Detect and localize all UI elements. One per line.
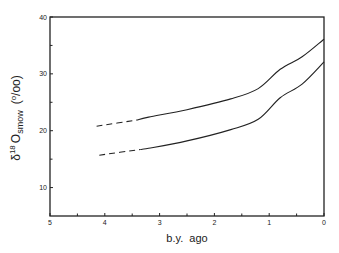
chart: 543210 10203040 b.y. ago δ18Osmow(o/oo) bbox=[0, 0, 339, 253]
y-tick-label: 30 bbox=[39, 70, 47, 77]
data-curves bbox=[97, 39, 324, 155]
y-label-sup: 18 bbox=[8, 145, 17, 154]
svg-text:δ18Osmow(o/oo): δ18Osmow(o/oo) bbox=[8, 75, 25, 161]
x-axis-label: b.y. ago bbox=[166, 232, 207, 244]
curve-solid bbox=[140, 62, 324, 150]
y-label-sub: smow bbox=[15, 110, 25, 134]
y-label-unit-rest: /oo bbox=[9, 79, 23, 96]
x-tick-label: 0 bbox=[322, 219, 326, 226]
curve-dashed bbox=[97, 120, 138, 126]
x-tick-label: 1 bbox=[267, 219, 271, 226]
x-tick-label: 4 bbox=[103, 219, 107, 226]
curve-dashed bbox=[99, 150, 140, 156]
curve-solid bbox=[138, 39, 324, 120]
x-tick-label: 3 bbox=[158, 219, 162, 226]
y-axis-label: δ18Osmow(o/oo) bbox=[8, 75, 25, 161]
x-tick-label: 2 bbox=[212, 219, 216, 226]
y-tick-label: 10 bbox=[39, 184, 47, 191]
y-axis-ticks: 10203040 bbox=[39, 14, 53, 192]
x-axis-ticks: 543210 bbox=[48, 213, 326, 226]
y-label-o: O bbox=[9, 134, 23, 143]
y-tick-label: 20 bbox=[39, 127, 47, 134]
plot-frame bbox=[50, 17, 324, 216]
x-tick-label: 5 bbox=[48, 219, 52, 226]
y-tick-label: 40 bbox=[39, 14, 47, 21]
